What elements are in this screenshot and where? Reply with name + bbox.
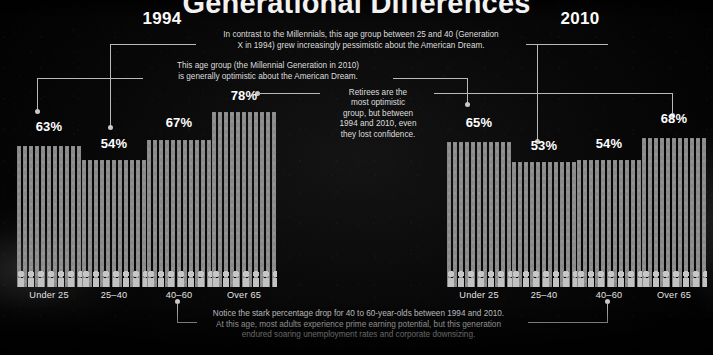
pictogram-fill-1994-25-40 <box>81 160 147 287</box>
year-heading-1994: 1994 <box>112 9 212 29</box>
bar-label-2010-40-60: 40–60 <box>576 290 642 300</box>
bar-value-2010-over65: 68% <box>641 111 707 126</box>
pictogram-fill-2010-25-40 <box>511 162 577 287</box>
pictogram-baserow-2010-under25 <box>446 270 512 287</box>
bar-label-1994-40-60: 40–60 <box>146 290 212 300</box>
leader-bottom-left-horizontal <box>177 322 197 323</box>
pictogram-baserow-1994-25-40 <box>81 270 147 287</box>
bar-1994-over65[interactable]: 78% Over 65 <box>211 110 277 287</box>
bar-value-2010-25-40: 53% <box>511 138 577 153</box>
annotation-bottom-note: Notice the stark percentage drop for 40 … <box>186 309 531 341</box>
pictogram-fill-2010-under25 <box>446 142 512 287</box>
leader-millennial-left-horizontal <box>37 78 143 79</box>
pictogram-baserow-1994-over65 <box>211 270 277 287</box>
leader-millennial-right-vertical <box>467 78 468 104</box>
leader-retirees-right-horizontal <box>434 93 673 94</box>
bar-value-1994-over65: 78% <box>211 88 277 103</box>
bar-1994-25-40[interactable]: 54% 25–40 <box>81 110 147 287</box>
pictogram-baserow-1994-under25 <box>16 270 82 287</box>
bar-label-1994-under25: Under 25 <box>16 290 82 300</box>
bar-value-2010-under25: 65% <box>446 115 512 130</box>
leader-bottom-left-vertical <box>177 303 178 322</box>
bar-2010-over65[interactable]: 68% Over 65 <box>641 110 707 287</box>
pictogram-baserow-2010-25-40 <box>511 270 577 287</box>
bar-label-1994-25-40: 25–40 <box>81 290 147 300</box>
annotation-millennial: This age group (the Millennial Generatio… <box>143 61 393 82</box>
bar-value-1994-40-60: 67% <box>146 115 212 130</box>
pictogram-fill-1994-40-60 <box>146 140 212 287</box>
year-heading-2010: 2010 <box>530 9 630 29</box>
annotation-generation-x: In contrast to the Millennials, this age… <box>196 30 526 51</box>
leader-genx-left-horizontal <box>110 44 196 45</box>
pictogram-baserow-1994-40-60 <box>146 270 212 287</box>
pictogram-baserow-2010-40-60 <box>576 270 642 287</box>
bar-2010-under25[interactable]: 65% Under 25 <box>446 110 512 287</box>
bar-1994-40-60[interactable]: 67% 40–60 <box>146 110 212 287</box>
leader-genx-right-horizontal <box>526 44 608 45</box>
bar-label-2010-25-40: 25–40 <box>511 290 577 300</box>
bar-1994-under25[interactable]: 63% Under 25 <box>16 110 82 287</box>
pictogram-baserow-2010-over65 <box>641 270 707 287</box>
pictogram-fill-1994-under25 <box>16 146 82 287</box>
bar-label-2010-under25: Under 25 <box>446 290 512 300</box>
leader-millennial-right-horizontal <box>393 78 468 79</box>
bar-value-1994-25-40: 54% <box>81 136 147 151</box>
pictogram-fill-2010-40-60 <box>576 160 642 287</box>
annotation-retirees: Retirees are the most optimistic group, … <box>322 88 434 140</box>
pictogram-fill-2010-over65 <box>641 138 707 287</box>
bar-value-2010-40-60: 54% <box>576 136 642 151</box>
leader-bottom-right-vertical <box>607 303 608 322</box>
bar-2010-40-60[interactable]: 54% 40–60 <box>576 110 642 287</box>
bar-2010-25-40[interactable]: 53% 25–40 <box>511 110 577 287</box>
bar-label-2010-over65: Over 65 <box>641 290 707 300</box>
infographic-canvas: Generational Differences 1994 2010 In co… <box>0 0 713 355</box>
leader-millennial-left-vertical <box>37 78 38 111</box>
leader-dot-2010-under25 <box>465 102 470 107</box>
bar-label-1994-over65: Over 65 <box>211 290 277 300</box>
leader-bottom-right-horizontal <box>528 322 608 323</box>
pictogram-fill-1994-over65 <box>211 112 277 287</box>
bar-value-1994-under25: 63% <box>16 119 82 134</box>
